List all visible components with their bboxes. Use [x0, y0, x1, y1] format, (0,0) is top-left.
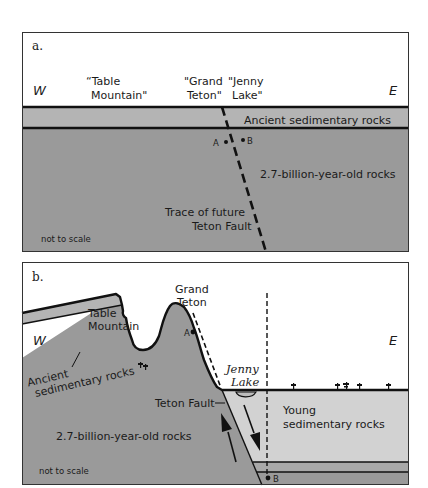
panel-b-fault-label: Teton Fault: [154, 397, 215, 410]
panel-b-point-b-label: B: [273, 474, 279, 484]
geologic-cross-section-figure: a. W E “Table Mountain" "Grand Teton" "J…: [0, 0, 428, 488]
panel-b-young-sed-label-1: Young: [282, 404, 316, 417]
panel-b-grand-teton-label-2: Teton: [176, 296, 207, 309]
panel-b-label: b.: [32, 270, 44, 284]
panel-a-point-a-label: A: [213, 138, 219, 148]
panel-a-point-b-label: B: [247, 136, 253, 146]
panel-b-jenny-lake-label-2: Lake: [230, 375, 259, 389]
panel-a: a. W E “Table Mountain" "Grand Teton" "J…: [22, 32, 409, 252]
panel-a-scale-note: not to scale: [41, 234, 91, 244]
panel-b-basement-label: 2.7-billion-year-old rocks: [56, 430, 192, 443]
panel-a-jenny-lake-label-1: "Jenny: [228, 75, 264, 88]
panel-a-fault-label-1: Trace of future: [164, 206, 245, 219]
panel-a-east-label: E: [389, 83, 398, 98]
panel-b-young-sed-label-2: sedimentary rocks: [283, 418, 385, 431]
panel-b-grand-teton-label-1: Grand: [175, 283, 209, 296]
panel-a-west-label: W: [33, 83, 47, 98]
panel-b-buried-basement: [256, 472, 409, 485]
panel-b-point-b-marker: [266, 476, 271, 481]
panel-b-scale-note: not to scale: [39, 466, 89, 476]
panel-a-point-a-marker: [224, 140, 228, 144]
panel-a-grand-teton-label-2: Teton": [186, 89, 222, 102]
panel-a-point-b-marker: [241, 138, 245, 142]
panel-b-west-label: W: [33, 333, 47, 348]
panel-a-fault-label-2: Teton Fault: [191, 220, 252, 233]
panel-a-grand-teton-label-1: "Grand: [184, 75, 223, 88]
panel-a-jenny-lake-label-2: Lake": [232, 89, 263, 102]
panel-b-east-label: E: [389, 333, 398, 348]
panel-b-point-a-label: A: [184, 328, 190, 338]
panel-b-table-mountain-label-1: Table: [87, 307, 117, 320]
panel-a-basement-label: 2.7-billion-year-old rocks: [260, 168, 396, 181]
panel-b: b. W E Table Mountain Grand Teton Jenny …: [22, 262, 409, 485]
panel-b-jenny-lake-label-1: Jenny: [224, 362, 259, 376]
panel-a-label: a.: [32, 39, 43, 53]
panel-a-ancient-sedimentary-label: Ancient sedimentary rocks: [244, 114, 391, 127]
panel-a-table-mountain-label-1: “Table: [86, 75, 120, 88]
panel-b-table-mountain-label-2: Mountain: [88, 320, 139, 333]
panel-b-point-a-marker: [191, 330, 196, 335]
panel-a-table-mountain-label-2: Mountain": [91, 89, 147, 102]
